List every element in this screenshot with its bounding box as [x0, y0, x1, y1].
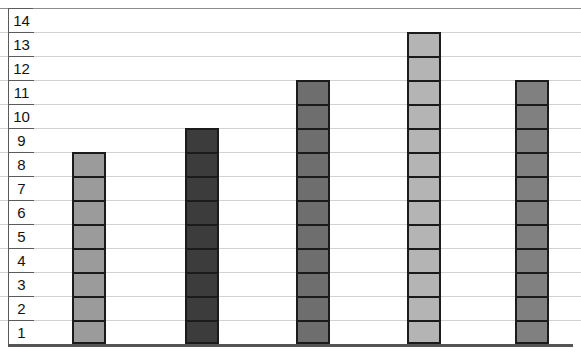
bar-segment [187, 178, 217, 202]
bar-segment [517, 82, 547, 106]
bar-segment [74, 250, 104, 274]
bar-segment [409, 34, 439, 58]
bar-segment [409, 274, 439, 298]
bar-segment [187, 202, 217, 226]
y-axis-tick-label: 5 [9, 225, 34, 249]
bar-segment [187, 130, 217, 154]
bar-segment [409, 130, 439, 154]
bars-container [0, 8, 581, 344]
bar-segment [409, 106, 439, 130]
bar-segment [298, 178, 328, 202]
y-axis-tick-label: 2 [9, 297, 34, 321]
bar-segment [74, 226, 104, 250]
bar-segment [298, 322, 328, 346]
y-axis-tick-label: 12 [9, 57, 34, 81]
bar-segment [74, 298, 104, 322]
bar-segment [517, 250, 547, 274]
y-axis-tick-label: 8 [9, 153, 34, 177]
bar-segment [298, 106, 328, 130]
bar-segment [298, 298, 328, 322]
bar-segment [187, 298, 217, 322]
bar[interactable] [407, 32, 441, 344]
bar-segment [409, 178, 439, 202]
bar-segment [409, 250, 439, 274]
y-axis-tick-label: 6 [9, 201, 34, 225]
bar-segment [74, 202, 104, 226]
bar-segment [517, 154, 547, 178]
bar-segment [187, 274, 217, 298]
bar-segment [298, 250, 328, 274]
bar-segment [187, 250, 217, 274]
y-axis-label-column: 1413121110987654321 [8, 8, 33, 344]
y-axis-tick-label: 3 [9, 273, 34, 297]
bar-segment [74, 274, 104, 298]
bar-segment [409, 154, 439, 178]
bar-segment [409, 226, 439, 250]
bar-segment [74, 322, 104, 346]
bar-segment [298, 154, 328, 178]
bar-segment [298, 130, 328, 154]
bar-segment [74, 154, 104, 178]
y-axis-tick-label: 10 [9, 105, 34, 129]
bar[interactable] [515, 80, 549, 344]
bar-segment [409, 322, 439, 346]
y-axis-tick-label: 11 [9, 81, 34, 105]
bar-chart: 1413121110987654321 [0, 0, 581, 356]
bar-segment [409, 58, 439, 82]
bar-segment [517, 298, 547, 322]
bar-segment [517, 178, 547, 202]
y-axis-tick-label: 14 [9, 9, 34, 33]
bar-segment [409, 298, 439, 322]
bar-segment [74, 178, 104, 202]
bar[interactable] [296, 80, 330, 344]
y-axis-tick-label: 13 [9, 33, 34, 57]
bar-segment [517, 106, 547, 130]
y-axis-tick-label: 4 [9, 249, 34, 273]
bar-segment [298, 82, 328, 106]
x-axis-labels [0, 347, 581, 356]
bar-segment [298, 226, 328, 250]
bar-segment [517, 322, 547, 346]
bar-segment [517, 274, 547, 298]
bar-segment [187, 322, 217, 346]
bar-segment [298, 274, 328, 298]
bar[interactable] [185, 128, 219, 344]
bar-segment [409, 202, 439, 226]
y-axis-tick-label: 7 [9, 177, 34, 201]
y-axis-tick-label: 1 [9, 321, 34, 345]
bar-segment [187, 154, 217, 178]
bar-segment [517, 202, 547, 226]
bar[interactable] [72, 152, 106, 344]
bar-segment [409, 82, 439, 106]
y-axis-tick-label: 9 [9, 129, 34, 153]
bar-segment [517, 226, 547, 250]
bar-segment [298, 202, 328, 226]
bar-segment [517, 130, 547, 154]
bar-segment [187, 226, 217, 250]
